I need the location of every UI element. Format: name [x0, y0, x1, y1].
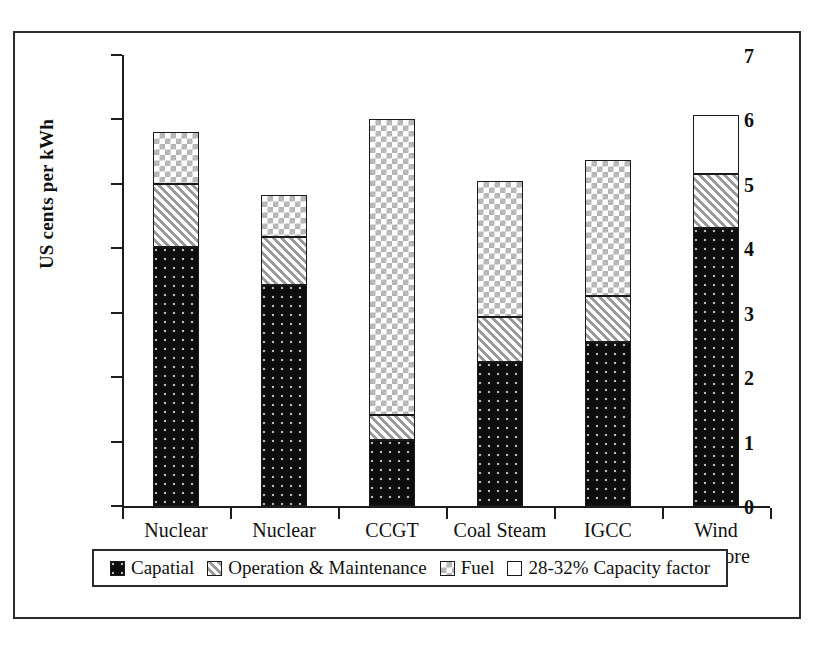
bar-segment-operation-maintenance[interactable] — [693, 174, 739, 229]
legend-item[interactable]: Capatial — [110, 557, 194, 579]
y-axis-tick — [111, 441, 122, 443]
bar-segment-28-32-capacity-factor[interactable] — [693, 115, 739, 174]
light-checker-swatch — [440, 561, 455, 576]
bar-segment-fuel[interactable] — [477, 181, 523, 316]
bar-segment-fuel[interactable] — [153, 132, 199, 184]
stacked-bar[interactable] — [693, 115, 739, 506]
y-axis-tick — [111, 376, 122, 378]
y-axis-tick — [111, 54, 122, 56]
bar-segment-capatial[interactable] — [693, 228, 739, 506]
y-axis-tick-label: 7 — [714, 46, 754, 66]
y-axis-tick — [111, 183, 122, 185]
legend-item[interactable]: Fuel — [440, 557, 495, 579]
y-axis-tick — [111, 505, 122, 507]
stacked-bar[interactable] — [369, 119, 415, 506]
chart-legend: CapatialOperation & MaintenanceFuel28-32… — [92, 549, 728, 587]
y-axis-tick — [111, 247, 122, 249]
stacked-bar[interactable] — [585, 160, 631, 506]
bar-segment-capatial[interactable] — [585, 342, 631, 506]
bar-segment-operation-maintenance[interactable] — [153, 184, 199, 247]
bar-segment-capatial[interactable] — [261, 285, 307, 506]
bar-segment-operation-maintenance[interactable] — [585, 296, 631, 342]
legend-item-label: Operation & Maintenance — [228, 557, 426, 579]
plot-area: 01234567 — [122, 55, 770, 508]
bar-segment-fuel[interactable] — [261, 195, 307, 236]
stacked-bar[interactable] — [477, 181, 523, 506]
bar-segment-operation-maintenance[interactable] — [261, 237, 307, 285]
bar-segment-capatial[interactable] — [153, 247, 199, 506]
bar-segment-capatial[interactable] — [369, 440, 415, 506]
legend-item[interactable]: 28-32% Capacity factor — [507, 557, 709, 579]
bar-segment-capatial[interactable] — [477, 362, 523, 506]
diagonal-hatch-swatch — [207, 561, 222, 576]
legend-item[interactable]: Operation & Maintenance — [207, 557, 426, 579]
y-axis-tick — [111, 312, 122, 314]
y-axis-tick — [111, 118, 122, 120]
legend-item-label: Fuel — [461, 557, 495, 579]
bar-segment-fuel[interactable] — [585, 160, 631, 296]
white-swatch — [507, 561, 522, 576]
bar-segment-operation-maintenance[interactable] — [477, 317, 523, 363]
bar-segment-fuel[interactable] — [369, 119, 415, 415]
legend-item-label: 28-32% Capacity factor — [528, 557, 709, 579]
bar-segment-operation-maintenance[interactable] — [369, 415, 415, 440]
stacked-bar[interactable] — [261, 195, 307, 506]
y-axis-line — [122, 55, 124, 508]
legend-item-label: Capatial — [131, 557, 194, 579]
y-axis-title: US cents per kWh — [36, 84, 58, 304]
black-dotted-swatch — [110, 561, 125, 576]
figure-frame: US cents per kWh 01234567 Nuclear HighNu… — [13, 31, 801, 619]
stacked-bar[interactable] — [153, 132, 199, 506]
